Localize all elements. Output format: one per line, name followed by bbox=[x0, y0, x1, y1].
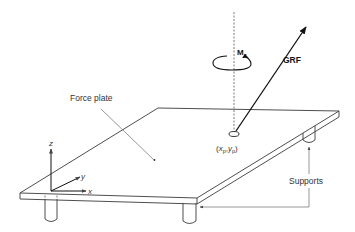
center-of-pressure-label: (xp,yp) bbox=[216, 144, 238, 154]
moment-label: Mz bbox=[237, 48, 247, 58]
force-plate bbox=[20, 108, 339, 204]
center-of-pressure-marker bbox=[229, 132, 239, 137]
supports-label: Supports bbox=[289, 176, 323, 186]
force-plate-diagram: Force plate GRF Mz (xp,yp) Supports z y … bbox=[0, 0, 355, 232]
axis-z-label: z bbox=[48, 139, 53, 148]
force-plate-label: Force plate bbox=[70, 93, 113, 103]
grf-label: GRF bbox=[283, 55, 301, 65]
